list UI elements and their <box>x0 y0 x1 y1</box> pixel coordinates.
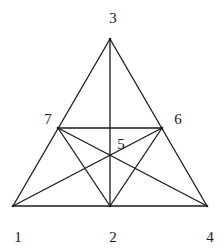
node-label-5: 5 <box>117 136 125 152</box>
node-label-6: 6 <box>174 111 182 127</box>
node-3 <box>109 38 112 41</box>
node-4 <box>206 205 209 208</box>
node-1 <box>12 205 15 208</box>
node-6 <box>161 127 164 130</box>
edge-7-2 <box>58 128 110 206</box>
node-label-1: 1 <box>14 229 22 245</box>
node-label-4: 4 <box>206 229 214 245</box>
node-label-7: 7 <box>44 111 52 127</box>
node-5 <box>109 154 112 157</box>
fano-diagram: 1234567 <box>0 0 223 252</box>
node-label-2: 2 <box>109 229 117 245</box>
node-label-3: 3 <box>109 10 117 26</box>
node-7 <box>57 127 60 130</box>
node-2 <box>109 205 112 208</box>
